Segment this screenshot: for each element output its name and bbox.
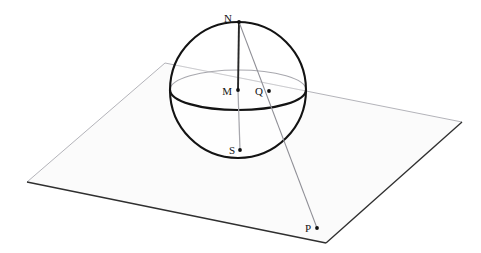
polar-axis-upper-segment [238, 22, 239, 90]
point-dot-plane-point [315, 226, 319, 230]
point-dot-center [236, 88, 240, 92]
point-dot-sphere-point [267, 89, 271, 93]
label-south-pole: S [229, 144, 235, 156]
stereographic-projection-figure: N M Q S P [0, 0, 481, 253]
figure-canvas: N M Q S P [0, 0, 481, 253]
point-dot-south-pole [238, 148, 242, 152]
label-center: M [222, 85, 232, 97]
label-plane-point: P [305, 222, 311, 234]
label-sphere-point: Q [255, 85, 263, 97]
point-dot-north-pole [237, 20, 241, 24]
label-north-pole: N [224, 12, 232, 24]
